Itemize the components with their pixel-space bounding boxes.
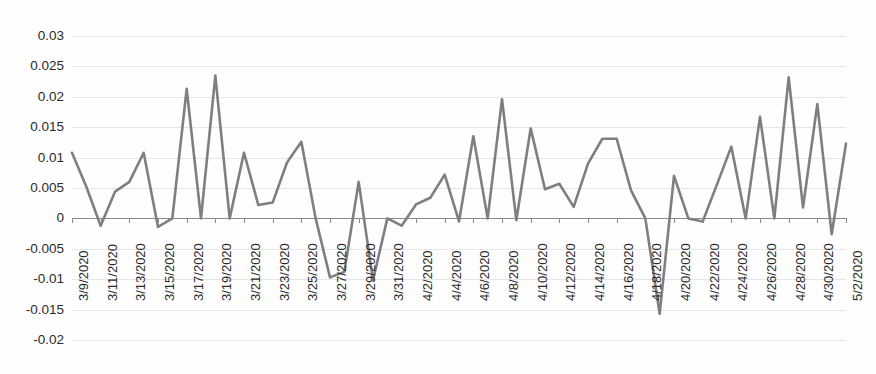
x-axis-tick-label: 4/12/2020: [564, 244, 577, 302]
x-axis-tick-mark: [817, 218, 818, 223]
x-axis-tick-mark: [273, 218, 274, 223]
x-axis-tick-label: 3/27/2020: [335, 244, 348, 302]
x-axis-tick-label: 3/19/2020: [220, 244, 233, 302]
x-axis-tick-label: 4/10/2020: [536, 244, 549, 302]
x-axis-tick-mark: [244, 218, 245, 223]
x-axis-tick-mark: [72, 218, 73, 223]
x-axis-tick-label: 4/26/2020: [765, 244, 778, 302]
x-axis-tick-mark: [416, 218, 417, 223]
x-axis-labels: 3/9/20203/11/20203/13/20203/15/20203/17/…: [0, 0, 876, 374]
x-axis-tick-label: 4/20/2020: [679, 244, 692, 302]
x-axis-tick-mark: [502, 218, 503, 223]
x-axis-tick-label: 4/4/2020: [450, 251, 463, 302]
x-axis-tick-label: 4/14/2020: [593, 244, 606, 302]
x-axis-tick-mark: [359, 218, 360, 223]
x-axis-tick-mark: [301, 218, 302, 223]
x-axis-tick-label: 4/16/2020: [622, 244, 635, 302]
x-axis-tick-label: 3/15/2020: [163, 244, 176, 302]
x-axis-tick-label: 5/2/2020: [851, 251, 864, 302]
x-axis-tick-mark: [703, 218, 704, 223]
x-axis-tick-label: 4/22/2020: [708, 244, 721, 302]
x-axis-tick-label: 4/30/2020: [822, 244, 835, 302]
x-axis-tick-mark: [846, 218, 847, 223]
x-axis-tick-mark: [473, 218, 474, 223]
x-axis-tick-mark: [559, 218, 560, 223]
x-axis-tick-label: 3/21/2020: [249, 244, 262, 302]
x-axis-tick-mark: [617, 218, 618, 223]
x-axis-tick-mark: [158, 218, 159, 223]
x-axis-tick-label: 3/23/2020: [278, 244, 291, 302]
x-axis-tick-mark: [760, 218, 761, 223]
x-axis-tick-mark: [445, 218, 446, 223]
x-axis-tick-label: 3/25/2020: [306, 244, 319, 302]
x-axis-tick-label: 3/29/2020: [364, 244, 377, 302]
x-axis-tick-mark: [330, 218, 331, 223]
x-axis-tick-label: 4/24/2020: [736, 244, 749, 302]
x-axis-tick-label: 4/2/2020: [421, 251, 434, 302]
x-axis-tick-mark: [645, 218, 646, 223]
x-axis-tick-label: 3/11/2020: [106, 245, 119, 302]
x-axis-tick-label: 3/17/2020: [192, 244, 205, 302]
line-chart: 0.030.0250.020.0150.010.0050-0.005-0.01-…: [0, 0, 876, 374]
x-axis-tick-mark: [101, 218, 102, 223]
x-axis-tick-label: 4/18/2020: [650, 244, 663, 302]
x-axis-tick-label: 3/9/2020: [77, 251, 90, 302]
x-axis-tick-label: 3/13/2020: [134, 244, 147, 302]
x-axis-tick-label: 4/28/2020: [794, 244, 807, 302]
x-axis-tick-mark: [674, 218, 675, 223]
x-axis-tick-mark: [731, 218, 732, 223]
x-axis-tick-mark: [187, 218, 188, 223]
x-axis-tick-label: 3/31/2020: [392, 244, 405, 302]
x-axis-tick-label: 4/8/2020: [507, 251, 520, 302]
x-axis-tick-mark: [387, 218, 388, 223]
x-axis-tick-mark: [215, 218, 216, 223]
x-axis-tick-mark: [531, 218, 532, 223]
x-axis-tick-mark: [588, 218, 589, 223]
x-axis-tick-mark: [129, 218, 130, 223]
x-axis-tick-label: 4/6/2020: [478, 251, 491, 302]
x-axis-tick-mark: [789, 218, 790, 223]
